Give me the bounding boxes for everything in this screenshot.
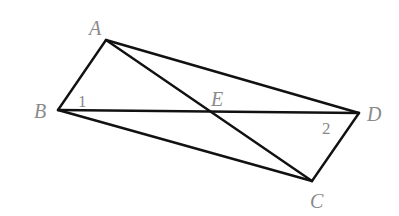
geometry-diagram: A B C D E 1 2 — [0, 0, 399, 216]
label-A: A — [87, 17, 102, 39]
segment-BC — [58, 110, 312, 181]
segment-AD — [106, 40, 359, 113]
quadrilateral-figure: A B C D E 1 2 — [0, 0, 399, 216]
label-C: C — [310, 190, 324, 212]
label-E: E — [210, 88, 223, 110]
label-D: D — [366, 103, 382, 125]
angle-label-2: 2 — [322, 119, 331, 138]
segment-CD — [312, 113, 359, 181]
label-B: B — [34, 100, 46, 122]
angle-label-1: 1 — [78, 92, 87, 111]
segment-BD — [58, 110, 359, 113]
